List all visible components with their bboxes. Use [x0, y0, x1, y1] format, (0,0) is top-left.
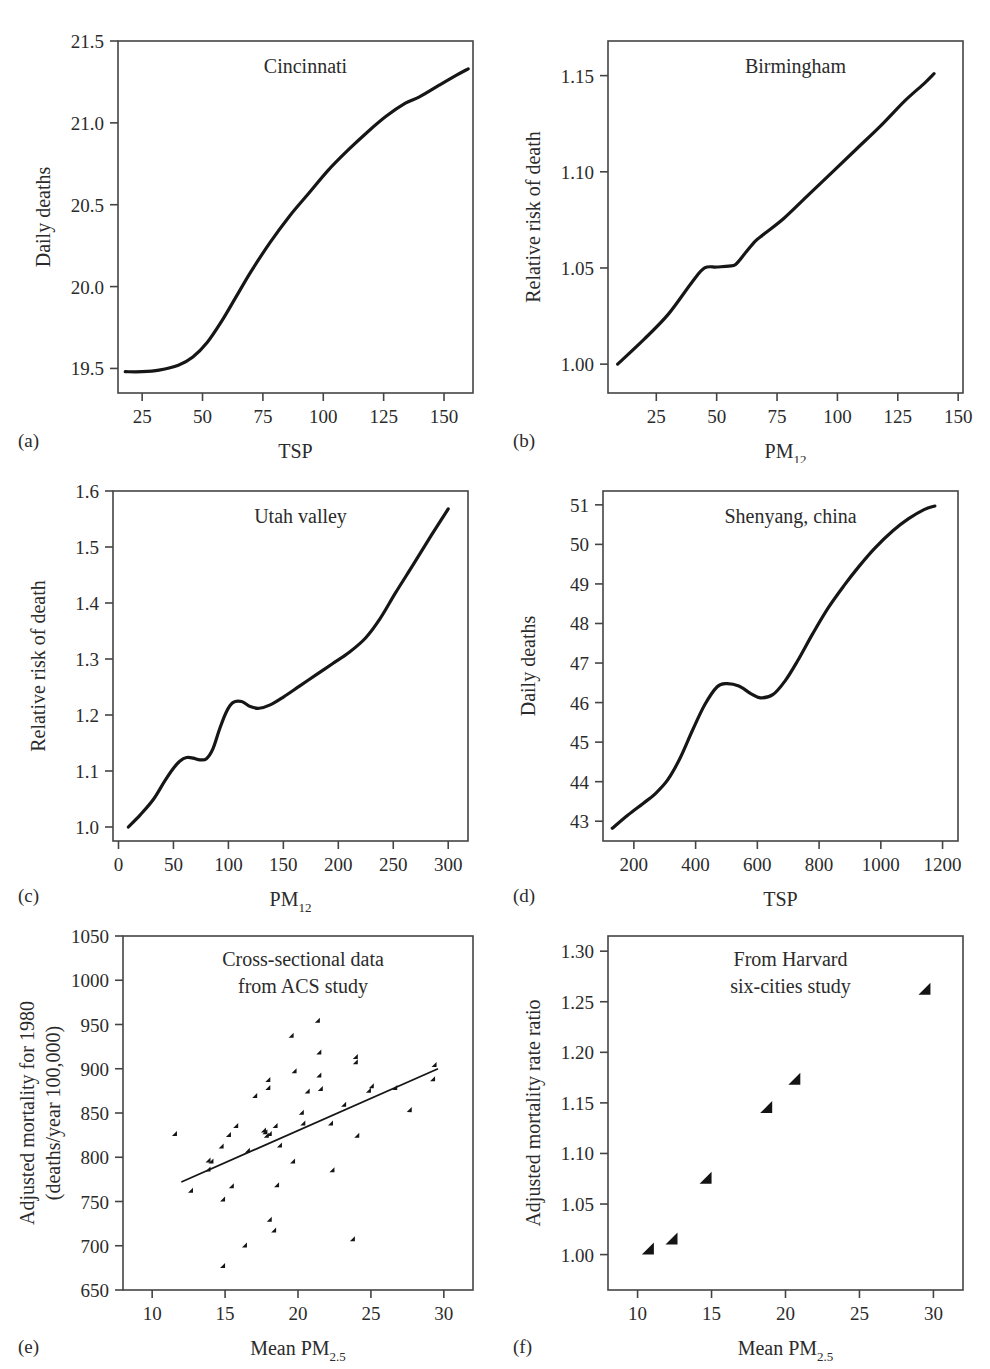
x-axis-label: Mean PM2.5	[738, 1337, 834, 1364]
y-tick-label: 1.5	[75, 537, 99, 558]
data-point	[666, 1232, 678, 1244]
y-tick-label: 800	[81, 1147, 110, 1168]
x-tick-label: 15	[216, 1303, 235, 1324]
x-tick-label: 25	[647, 406, 666, 427]
data-point	[252, 1093, 257, 1098]
x-tick-label: 800	[805, 854, 834, 875]
y-tick-label: 650	[81, 1280, 110, 1301]
x-tick-label: 200	[324, 854, 353, 875]
data-point	[265, 1085, 270, 1090]
data-point	[788, 1073, 800, 1085]
x-tick-label: 30	[924, 1303, 943, 1324]
x-tick-label: 100	[309, 406, 338, 427]
data-curve	[612, 506, 935, 828]
data-point	[220, 1263, 225, 1268]
panel-letter: (b)	[513, 430, 535, 452]
panel-f: 1.001.051.101.151.201.251.301015202530Fr…	[495, 908, 990, 1369]
chart-d: 43444546474849505120040060080010001200Sh…	[495, 463, 990, 918]
data-point	[328, 1120, 333, 1125]
panel-d: 43444546474849505120040060080010001200Sh…	[495, 463, 990, 918]
x-axis-label: TSP	[763, 888, 797, 910]
chart-f: 1.001.051.101.151.201.251.301015202530Fr…	[495, 908, 990, 1369]
x-tick-label: 600	[743, 854, 772, 875]
y-tick-label: 1.1	[75, 761, 99, 782]
data-curve	[618, 74, 934, 364]
panel-title: Cincinnati	[264, 55, 348, 77]
x-tick-label: 1200	[924, 854, 962, 875]
y-tick-label: 21.0	[71, 113, 104, 134]
y-tick-label: 1.6	[75, 481, 99, 502]
y-tick-label: 46	[570, 693, 589, 714]
panel-letter: (c)	[18, 885, 39, 907]
data-point	[366, 1088, 371, 1093]
panel-b: 1.001.051.101.15255075100125150Birmingha…	[495, 8, 990, 463]
panel-c: 1.01.11.21.31.41.51.6050100150200250300U…	[0, 463, 495, 918]
y-tick-label: 1.00	[561, 354, 594, 375]
data-point	[206, 1166, 211, 1171]
y-tick-label: 1.15	[561, 1093, 594, 1114]
y-tick-label: 1.25	[561, 992, 594, 1013]
panel-letter: (d)	[513, 885, 535, 907]
data-curve	[125, 69, 468, 372]
chart-e: 650700750800850900950100010501015202530C…	[0, 908, 495, 1369]
x-tick-label: 0	[114, 854, 124, 875]
y-axis-label: Daily deaths	[32, 167, 55, 268]
x-tick-label: 25	[133, 406, 152, 427]
y-tick-label: 20.5	[71, 195, 104, 216]
data-point	[305, 1089, 310, 1094]
y-axis-label-line: Adjusted mortality for 1980	[16, 1001, 39, 1225]
chart-a: 19.520.020.521.021.5255075100125150Cinci…	[0, 8, 495, 463]
chart-c: 1.01.11.21.31.41.51.6050100150200250300U…	[0, 463, 495, 918]
data-point	[274, 1182, 279, 1187]
x-axis-label: TSP	[278, 440, 312, 462]
panel-letter: (a)	[18, 430, 39, 452]
chart-b: 1.001.051.101.15255075100125150Birmingha…	[495, 8, 990, 463]
y-tick-label: 1.05	[561, 258, 594, 279]
data-point	[229, 1183, 234, 1188]
x-tick-label: 75	[768, 406, 787, 427]
x-tick-label: 150	[430, 406, 459, 427]
data-point	[242, 1243, 247, 1248]
panel-title-line: Cross-sectional data	[222, 948, 384, 970]
panel-e: 650700750800850900950100010501015202530C…	[0, 908, 495, 1369]
x-tick-label: 10	[628, 1303, 647, 1324]
data-point	[273, 1123, 278, 1128]
x-tick-label: 100	[214, 854, 243, 875]
y-axis-label: Adjusted mortality rate ratio	[522, 999, 545, 1226]
plot-frame	[118, 41, 473, 393]
x-axis-label: Mean PM2.5	[250, 1337, 346, 1364]
y-tick-label: 950	[81, 1015, 110, 1036]
data-point	[700, 1172, 712, 1184]
y-tick-label: 49	[570, 574, 589, 595]
panel-title: Birmingham	[745, 55, 847, 78]
y-tick-label: 47	[570, 653, 589, 674]
data-point	[206, 1158, 211, 1163]
data-point	[299, 1110, 304, 1115]
data-point	[267, 1131, 272, 1136]
y-tick-label: 1.0	[75, 817, 99, 838]
y-tick-label: 21.5	[71, 31, 104, 52]
y-tick-label: 850	[81, 1103, 110, 1124]
x-tick-label: 200	[620, 854, 649, 875]
y-tick-label: 1.2	[75, 705, 99, 726]
y-tick-label: 48	[570, 613, 589, 634]
x-tick-label: 100	[823, 406, 852, 427]
data-point	[267, 1217, 272, 1222]
y-tick-label: 1.10	[561, 162, 594, 183]
data-point	[642, 1243, 654, 1255]
x-tick-label: 50	[707, 406, 726, 427]
data-point	[341, 1102, 346, 1107]
x-tick-label: 300	[434, 854, 463, 875]
x-tick-label: 25	[850, 1303, 869, 1324]
y-tick-label: 20.0	[71, 277, 104, 298]
y-tick-label: 19.5	[71, 358, 104, 379]
data-point	[316, 1073, 321, 1078]
x-tick-label: 25	[361, 1303, 380, 1324]
data-point	[760, 1101, 772, 1113]
y-tick-label: 1.30	[561, 941, 594, 962]
data-point	[918, 983, 930, 995]
panel-a: 19.520.020.521.021.5255075100125150Cinci…	[0, 8, 495, 463]
data-point	[354, 1133, 359, 1138]
data-point	[432, 1062, 437, 1067]
x-tick-label: 20	[289, 1303, 308, 1324]
